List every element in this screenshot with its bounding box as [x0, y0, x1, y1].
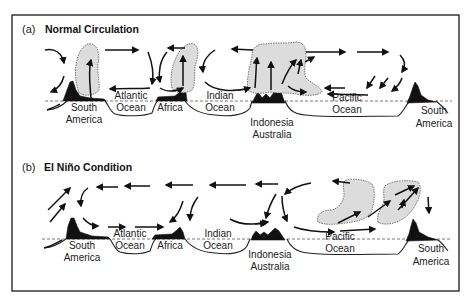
cloud-eastern-pacific — [378, 181, 421, 224]
africa-land — [152, 227, 185, 239]
label-south-america-east-b-1: South — [418, 243, 444, 254]
label-indonesia-a-2: Australia — [253, 129, 292, 140]
south-america-east-land — [406, 219, 438, 241]
label-south-america-west-a-2: America — [66, 114, 103, 125]
label-indian-b-1: Indian — [204, 228, 231, 239]
label-atlantic-b-2: Ocean — [115, 240, 144, 251]
panel-b-letter: (b) — [22, 161, 35, 173]
label-indonesia-b-2: Australia — [251, 261, 290, 272]
label-south-america-west-a-1: South — [71, 102, 97, 113]
label-atlantic-b-1: Atlantic — [114, 228, 147, 239]
label-indonesia-b-1: Indonesia — [248, 249, 292, 260]
label-indian-b-2: Ocean — [203, 240, 232, 251]
ocean-floor — [47, 101, 448, 117]
label-south-america-east-b-2: America — [413, 256, 450, 267]
label-pacific-a-1: Pacific — [332, 92, 361, 103]
label-africa-a: Africa — [157, 102, 183, 113]
indonesia-australia-land — [251, 228, 285, 240]
label-south-america-west-b-1: South — [69, 240, 95, 251]
cloud-indonesia — [247, 42, 322, 95]
ocean-floor — [44, 239, 448, 255]
label-indian-a-2: Ocean — [205, 102, 234, 113]
label-indonesia-a-1: Indonesia — [250, 117, 294, 128]
label-south-america-east-a-2: America — [416, 118, 453, 129]
panel-a-letter: (a) — [22, 23, 35, 35]
label-indian-a-1: Indian — [206, 90, 233, 101]
panel-normal-circulation: (a) Normal Circulation — [22, 23, 453, 140]
panel-el-nino-condition: (b) El Niño Condition — [22, 161, 452, 272]
panel-a-title: Normal Circulation — [45, 23, 139, 35]
label-pacific-a-2: Ocean — [332, 104, 361, 115]
label-south-america-west-b-2: America — [64, 252, 101, 263]
label-atlantic-a-2: Ocean — [116, 102, 145, 113]
south-america-east-land — [407, 82, 436, 103]
walker-circulation-figure: (a) Normal Circulation — [0, 0, 472, 303]
label-pacific-b-1: Pacific — [325, 231, 354, 242]
label-south-america-east-a-1: South — [421, 105, 447, 116]
south-america-west-land — [66, 218, 110, 239]
cloud-central-pacific — [318, 179, 375, 224]
label-africa-b: Africa — [157, 240, 183, 251]
label-pacific-b-2: Ocean — [325, 243, 354, 254]
label-atlantic-a-1: Atlantic — [115, 90, 148, 101]
cloud-africa — [171, 44, 198, 93]
panel-b-title: El Niño Condition — [44, 161, 132, 173]
cloud-amazon — [76, 44, 100, 95]
